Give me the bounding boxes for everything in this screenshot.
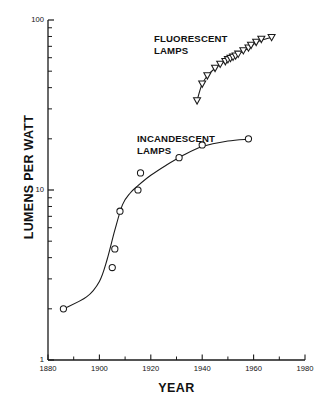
data-point-circle: [60, 306, 66, 312]
y-tick-label: 10: [14, 185, 44, 194]
x-tick-label: 1980: [294, 364, 316, 373]
plot-area: [0, 0, 329, 408]
chart-figure: LUMENS PER WATT YEAR FLUORESCENT LAMPS I…: [0, 0, 329, 408]
y-tick-label: 1: [14, 355, 44, 364]
trend-curve: [63, 139, 248, 309]
data-point-triangle: [204, 73, 211, 79]
annotation-incandescent-lamps: INCANDESCENT LAMPS: [137, 133, 215, 156]
data-point-circle: [135, 187, 141, 193]
data-point-circle: [137, 170, 143, 176]
x-axis-title: YEAR: [48, 381, 305, 395]
x-tick-label: 1900: [88, 364, 110, 373]
data-series: [60, 34, 275, 311]
data-point-circle: [117, 208, 123, 214]
x-tick-label: 1940: [191, 364, 213, 373]
data-point-circle: [245, 136, 251, 142]
data-point-circle: [112, 246, 118, 252]
series-incandescent-lamps: [60, 136, 251, 312]
x-tick-label: 1960: [243, 364, 265, 373]
y-tick-label: 100: [14, 15, 44, 24]
annotation-fluorescent-lamps: FLUORESCENT LAMPS: [154, 33, 228, 56]
data-point-triangle: [194, 98, 201, 104]
x-tick-label: 1880: [37, 364, 59, 373]
x-tick-label: 1920: [140, 364, 162, 373]
data-point-triangle: [199, 81, 206, 87]
axes: [48, 20, 305, 360]
data-point-circle: [109, 264, 115, 270]
